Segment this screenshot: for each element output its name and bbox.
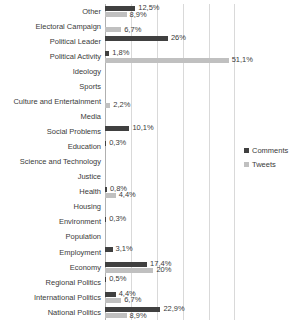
bar-comments bbox=[105, 292, 116, 297]
legend-swatch-tweets-icon bbox=[244, 162, 249, 167]
bar-row bbox=[105, 79, 255, 94]
bar-comments bbox=[105, 262, 147, 267]
bar-value-label-tweets: 6,7% bbox=[124, 296, 141, 304]
bar-row bbox=[105, 154, 255, 169]
category-label-text: Environment bbox=[59, 218, 101, 226]
legend-label-comments: Comments bbox=[252, 146, 288, 155]
category-label-text: Employment bbox=[59, 249, 101, 257]
legend-swatch-comments-icon bbox=[244, 148, 249, 153]
category-label: Social Problems bbox=[0, 124, 103, 139]
category-label-text: Population bbox=[66, 233, 101, 241]
bar-value-label-comments: 0,3% bbox=[109, 215, 126, 223]
bar-rows: 12,5%8,9%6,7%26%1,8%51,1%2,2%10,1%0,3%0,… bbox=[105, 4, 255, 320]
bar-tweets bbox=[105, 27, 121, 32]
category-label-text: Economy bbox=[70, 264, 101, 272]
bar-value-label-comments: 0,5% bbox=[109, 275, 126, 283]
bar-comments bbox=[105, 141, 106, 146]
category-label: Media bbox=[0, 109, 103, 124]
category-label: Sports bbox=[0, 79, 103, 94]
category-label-text: Science and Technology bbox=[20, 158, 101, 166]
category-label-text: Sports bbox=[79, 83, 101, 91]
category-label-text: Electoral Campaign bbox=[36, 23, 101, 31]
bar-tweets bbox=[105, 103, 110, 108]
bar-value-label-tweets: 8,9% bbox=[130, 312, 147, 320]
bar-comments bbox=[105, 277, 106, 282]
bar-row: 17,4%20% bbox=[105, 260, 255, 275]
category-label-text: Political Leader bbox=[50, 38, 101, 46]
bar-value-label-comments: 10,1% bbox=[132, 124, 153, 132]
category-label-text: Justice bbox=[78, 173, 101, 181]
category-label-text: International Politics bbox=[34, 294, 101, 302]
category-label-text: Housing bbox=[73, 203, 101, 211]
bar-tweets bbox=[105, 193, 116, 198]
category-label: Employment bbox=[0, 245, 103, 260]
category-label-text: Social Problems bbox=[47, 128, 101, 136]
horizontal-bar-chart: OtherElectoral CampaignPolitical LeaderP… bbox=[0, 0, 307, 324]
category-label-text: National Politics bbox=[48, 309, 101, 317]
bar-comments bbox=[105, 126, 129, 131]
category-label-text: Political Activity bbox=[50, 53, 101, 61]
bar-row bbox=[105, 170, 255, 185]
bar-value-label-tweets: 8,9% bbox=[130, 11, 147, 19]
bar-row bbox=[105, 230, 255, 245]
category-label: Economy bbox=[0, 260, 103, 275]
category-label: Population bbox=[0, 230, 103, 245]
bar-row bbox=[105, 64, 255, 79]
bar-tweets bbox=[105, 58, 229, 63]
category-label: International Politics bbox=[0, 290, 103, 305]
legend-item-tweets: Tweets bbox=[244, 160, 288, 169]
bar-value-label-tweets: 20% bbox=[156, 266, 171, 274]
bar-tweets bbox=[105, 12, 127, 17]
bar-tweets bbox=[105, 298, 121, 303]
bar-value-label-tweets: 51,1% bbox=[232, 56, 253, 64]
category-label: Justice bbox=[0, 170, 103, 185]
bar-value-label-comments: 26% bbox=[171, 34, 186, 42]
category-label: Housing bbox=[0, 200, 103, 215]
bar-row bbox=[105, 109, 255, 124]
bar-row: 6,7% bbox=[105, 19, 255, 34]
category-label: National Politics bbox=[0, 305, 103, 320]
bar-value-label-comments: 22,9% bbox=[163, 305, 184, 313]
bar-row: 22,9%8,9% bbox=[105, 305, 255, 320]
bar-comments bbox=[105, 51, 109, 56]
bar-tweets bbox=[105, 268, 153, 273]
bar-value-label-tweets: 2,2% bbox=[113, 101, 130, 109]
category-axis-labels: OtherElectoral CampaignPolitical LeaderP… bbox=[0, 4, 103, 320]
bar-value-label-comments: 0,3% bbox=[109, 139, 126, 147]
legend-label-tweets: Tweets bbox=[252, 160, 276, 169]
category-label: Ideology bbox=[0, 64, 103, 79]
bar-comments bbox=[105, 217, 106, 222]
bar-row: 0,8%4,4% bbox=[105, 185, 255, 200]
category-label-text: Education bbox=[68, 143, 101, 151]
bar-row: 26% bbox=[105, 34, 255, 49]
bar-value-label-tweets: 4,4% bbox=[119, 191, 136, 199]
bar-value-label-tweets: 6,7% bbox=[124, 26, 141, 34]
bar-row: 0,3% bbox=[105, 139, 255, 154]
category-label-text: Ideology bbox=[73, 68, 101, 76]
category-label: Science and Technology bbox=[0, 154, 103, 169]
category-label: Electoral Campaign bbox=[0, 19, 103, 34]
category-label: Health bbox=[0, 185, 103, 200]
category-label: Education bbox=[0, 139, 103, 154]
plot-area: 12,5%8,9%6,7%26%1,8%51,1%2,2%10,1%0,3%0,… bbox=[105, 4, 255, 320]
category-label: Regional Politics bbox=[0, 275, 103, 290]
category-label-text: Media bbox=[81, 113, 101, 121]
category-label: Environment bbox=[0, 215, 103, 230]
category-label: Other bbox=[0, 4, 103, 19]
bar-row: 0,5% bbox=[105, 275, 255, 290]
category-label: Culture and Entertainment bbox=[0, 94, 103, 109]
bar-row: 1,8%51,1% bbox=[105, 49, 255, 64]
bar-row: 10,1% bbox=[105, 124, 255, 139]
category-label-text: Culture and Entertainment bbox=[13, 98, 101, 106]
category-label-text: Regional Politics bbox=[46, 279, 101, 287]
bar-value-label-comments: 3,1% bbox=[116, 245, 133, 253]
bar-tweets bbox=[105, 313, 127, 318]
bar-comments bbox=[105, 247, 113, 252]
bar-value-label-comments: 1,8% bbox=[112, 49, 129, 57]
bar-row: 2,2% bbox=[105, 94, 255, 109]
bar-row: 12,5%8,9% bbox=[105, 4, 255, 19]
category-label-text: Other bbox=[82, 8, 101, 16]
chart-legend: Comments Tweets bbox=[244, 146, 288, 174]
category-label-text: Health bbox=[79, 188, 101, 196]
bar-comments bbox=[105, 187, 107, 192]
